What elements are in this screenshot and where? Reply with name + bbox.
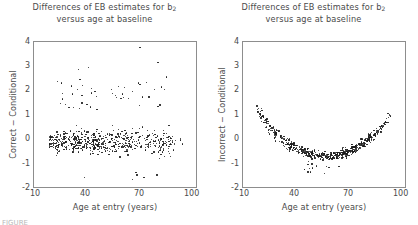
data-point (109, 135, 110, 136)
panel-right-xlabel: Age at entry (years) (242, 202, 406, 212)
data-point (162, 151, 163, 152)
data-point (103, 136, 104, 137)
data-point (257, 111, 258, 112)
data-point (306, 154, 307, 155)
data-point (82, 85, 83, 86)
panel-right-ytick-3: 3 (223, 62, 239, 70)
data-point (157, 106, 158, 107)
panel-right-ytick-m1: -1 (223, 160, 239, 168)
data-point (307, 148, 308, 149)
data-point (339, 157, 340, 158)
data-point (66, 137, 67, 138)
data-point (301, 153, 302, 154)
data-point (60, 103, 61, 104)
data-point (343, 147, 344, 148)
data-point (273, 126, 274, 127)
data-point (75, 145, 76, 146)
data-point (139, 84, 140, 85)
data-point (154, 130, 155, 131)
panel-right-plot-area (242, 41, 406, 188)
data-point (84, 144, 85, 145)
data-point (63, 131, 64, 132)
data-point (158, 147, 159, 148)
panel-left-title-line2: versus age at baseline (0, 14, 209, 25)
panel-left-ytick-3: 3 (14, 62, 30, 70)
data-point (127, 137, 128, 138)
panel-right-ytick-0: 0 (223, 135, 239, 143)
data-point (376, 131, 377, 132)
data-point (282, 138, 283, 139)
data-point (59, 150, 60, 151)
data-point (302, 147, 303, 148)
data-point (92, 153, 93, 154)
data-point (151, 153, 152, 154)
data-point (324, 151, 325, 152)
data-point (56, 131, 57, 132)
data-point (166, 142, 167, 143)
data-point (166, 144, 167, 145)
data-point (72, 93, 73, 94)
data-point (130, 146, 131, 147)
data-point (60, 134, 61, 135)
data-point (105, 145, 106, 146)
data-point (296, 147, 297, 148)
data-point (76, 137, 77, 138)
data-point (337, 153, 338, 154)
data-point (270, 125, 271, 126)
data-point (156, 143, 157, 144)
data-point (154, 134, 155, 135)
panel-right-title-subscript: 2 (382, 5, 386, 12)
data-point (170, 140, 171, 141)
data-point (302, 152, 303, 153)
data-point (307, 171, 308, 172)
data-point (129, 140, 130, 141)
data-point (151, 139, 152, 140)
data-point (69, 149, 70, 150)
data-point (295, 145, 296, 146)
data-point (73, 146, 74, 147)
panel-left-ytick-0: 0 (14, 135, 30, 143)
data-point (99, 144, 100, 145)
data-point (106, 148, 107, 149)
data-point (79, 108, 80, 109)
data-point (149, 134, 150, 135)
data-point (57, 81, 58, 82)
data-point (172, 136, 173, 137)
data-point (304, 169, 305, 170)
data-point (315, 152, 316, 153)
data-point (172, 140, 173, 141)
data-point (100, 146, 101, 147)
data-point (68, 107, 69, 108)
data-point (168, 148, 169, 149)
data-point (94, 91, 95, 92)
data-point (295, 148, 296, 149)
data-point (261, 108, 262, 109)
data-point (310, 171, 311, 172)
data-point (330, 157, 331, 158)
data-point (258, 108, 259, 109)
data-point (323, 158, 324, 159)
data-point (312, 151, 313, 152)
data-point (148, 96, 149, 97)
data-point (157, 62, 158, 63)
data-point (57, 147, 58, 148)
data-point (87, 144, 88, 145)
data-point (388, 117, 389, 118)
data-point (348, 155, 349, 156)
data-point (355, 151, 356, 152)
data-point (62, 93, 63, 94)
data-point (86, 104, 87, 105)
panel-right: Differences of EB estimates for b2 versu… (209, 0, 418, 225)
data-point (71, 85, 72, 86)
data-point (142, 135, 143, 136)
data-point (155, 140, 156, 141)
data-point (260, 111, 261, 112)
data-point (382, 127, 383, 128)
data-point (49, 143, 50, 144)
panel-right-ytick-4: 4 (223, 38, 239, 46)
panel-right-xtick-100: 100 (393, 190, 408, 198)
data-point (345, 147, 346, 148)
data-point (268, 123, 269, 124)
data-point (124, 87, 125, 88)
data-point (90, 153, 91, 154)
